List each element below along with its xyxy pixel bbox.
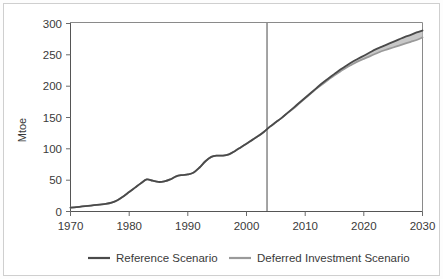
y-tick-label-150: 150 [43, 112, 62, 124]
legend-label-deferred-investment-scenario: Deferred Investment Scenario [257, 252, 410, 264]
x-tick-label-2010: 2010 [292, 220, 318, 232]
y-axis-labels: 0 50 100 150 200 250 300 [43, 18, 62, 218]
line-chart: 0 50 100 150 200 250 300 Mtoe 1970 1980 … [0, 0, 443, 279]
x-tick-label-2000: 2000 [234, 220, 260, 232]
y-tick-label-0: 0 [56, 206, 62, 218]
series-line-deferred-investment-scenario [71, 37, 423, 207]
x-tick-label-1970: 1970 [58, 220, 84, 232]
y-axis-ticks [66, 24, 71, 212]
chart-legend: Reference Scenario Deferred Investment S… [88, 252, 410, 264]
x-axis-ticks [71, 212, 423, 217]
y-tick-label-200: 200 [43, 80, 62, 92]
chart-figure: 0 50 100 150 200 250 300 Mtoe 1970 1980 … [0, 0, 443, 279]
x-tick-label-1990: 1990 [175, 220, 201, 232]
y-axis-title: Mtoe [16, 118, 28, 142]
legend-label-reference-scenario: Reference Scenario [116, 252, 218, 264]
plot-series-group [71, 31, 423, 208]
x-tick-label-2020: 2020 [351, 220, 377, 232]
y-tick-label-300: 300 [43, 18, 62, 30]
x-axis-labels: 1970 1980 1990 2000 2010 2020 2030 [58, 220, 436, 232]
y-tick-label-250: 250 [43, 49, 62, 61]
plot-frame [71, 23, 423, 212]
x-tick-label-2030: 2030 [410, 220, 436, 232]
x-tick-label-1980: 1980 [116, 220, 142, 232]
y-tick-label-50: 50 [49, 174, 62, 186]
y-tick-label-100: 100 [43, 143, 62, 155]
